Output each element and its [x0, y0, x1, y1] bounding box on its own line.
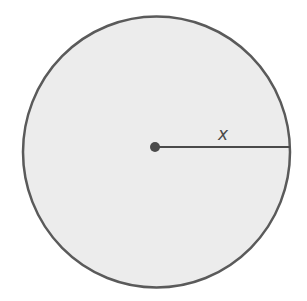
circle-diagram: x	[0, 0, 307, 301]
radius-label: x	[217, 124, 229, 144]
center-dot	[150, 142, 160, 152]
circle	[23, 17, 290, 288]
